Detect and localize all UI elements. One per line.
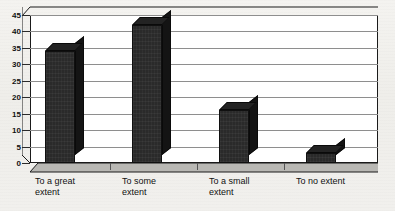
y-axis-tick-label: 45 <box>12 11 21 20</box>
x-axis-labels: To a great extentTo some extentTo a smal… <box>0 176 395 211</box>
y-axis-tick <box>22 15 30 16</box>
x-axis-tick <box>110 163 111 170</box>
y-axis-tick-label: 30 <box>12 60 21 69</box>
bar-front-face <box>132 25 162 163</box>
bar-front-face <box>306 153 336 163</box>
y-axis-tick <box>22 163 30 164</box>
y-axis-tick <box>22 97 30 98</box>
y-axis-tick-label: 40 <box>12 27 21 36</box>
bar <box>132 16 162 163</box>
y-axis-tick <box>22 114 30 115</box>
y-axis-tick <box>22 31 30 32</box>
bar <box>306 144 336 163</box>
y-axis-tick-label: 15 <box>12 109 21 118</box>
x-axis-tick <box>197 163 198 170</box>
chart-root: 454035302520151050 To a great extentTo s… <box>0 0 395 211</box>
x-axis-tick <box>284 163 285 170</box>
y-axis-tick <box>22 81 30 82</box>
y-axis-tick <box>22 130 30 131</box>
y-axis-tick-label: 5 <box>17 142 21 151</box>
y-axis-tick-label: 25 <box>12 76 21 85</box>
bar-side-face <box>162 10 171 155</box>
bar-front-face <box>45 51 75 163</box>
plot-floor <box>30 163 378 177</box>
bar <box>45 42 75 163</box>
y-axis-tick-label: 0 <box>17 159 21 168</box>
bar <box>219 101 249 163</box>
y-axis-tick-label: 20 <box>12 93 21 102</box>
y-axis-tick <box>22 64 30 65</box>
x-axis-tick-label: To a small extent <box>209 176 250 198</box>
bar-front-face <box>219 110 249 163</box>
bar-side-face <box>75 36 84 155</box>
x-axis-tick-label: To no extent <box>296 176 345 187</box>
x-axis-tick-label: To some extent <box>122 176 156 198</box>
y-axis-tick <box>22 48 30 49</box>
y-axis-tick-label: 35 <box>12 43 21 52</box>
y-axis-tick-label: 10 <box>12 126 21 135</box>
x-axis-tick-label: To a great extent <box>35 176 75 198</box>
bar-series <box>30 15 378 163</box>
y-axis-tick <box>22 147 30 148</box>
